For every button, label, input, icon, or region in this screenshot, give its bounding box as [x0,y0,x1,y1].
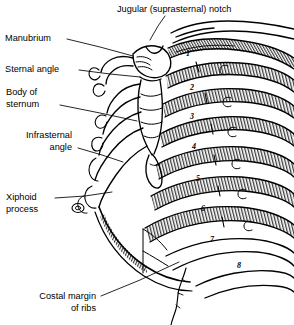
label-body-of-sternum: Body of sternum [6,87,39,110]
rib-number-4: 4 [192,143,196,151]
thoracic-cage-line-art [0,0,294,325]
rib-number-5: 5 [196,175,200,183]
abdominal-midline [171,268,186,325]
thoracic-cage-figure: Jugular (suprasternal) notch Manubrium S… [0,0,294,325]
label-infrasternal-angle: Infrasternal angle [4,130,72,153]
rib-number-3: 3 [190,113,194,121]
leader-lines [55,16,179,296]
costal-cartilages [72,57,147,214]
rib-number-8: 8 [237,262,241,270]
label-xiphoid-process: Xiphoid process [6,192,38,215]
label-jugular-notch: Jugular (suprasternal) notch [117,4,231,16]
ribs [145,39,294,298]
label-costal-margin: Costal margin of ribs [12,291,96,314]
rib-number-2: 2 [190,84,194,92]
label-manubrium: Manubrium [5,33,51,45]
rib-number-6: 6 [201,205,205,213]
label-sternal-angle: Sternal angle [5,64,59,76]
rib-number-7: 7 [210,236,214,244]
rib-number-1: 1 [186,50,190,58]
